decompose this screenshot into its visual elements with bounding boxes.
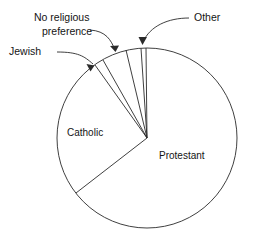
label-no-religious-preference-line2: preference <box>42 25 92 37</box>
label-other: Other <box>194 11 221 23</box>
leader-line-jewish <box>57 52 93 64</box>
slice-divider-jewish-nopreference <box>103 60 147 138</box>
label-jewish: Jewish <box>9 45 41 57</box>
label-protestant: Protestant <box>159 150 205 161</box>
arrowhead-other <box>139 37 148 45</box>
slice-divider-protestant-catholic <box>76 138 147 193</box>
label-no-religious-preference-line1: No religious <box>34 11 89 23</box>
leader-line-other <box>143 18 189 42</box>
label-catholic: Catholic <box>67 127 103 138</box>
pie-chart-figure: Jewish No religious preference Other Cat… <box>0 0 253 246</box>
arrowhead-no-religious-preference <box>110 46 119 53</box>
